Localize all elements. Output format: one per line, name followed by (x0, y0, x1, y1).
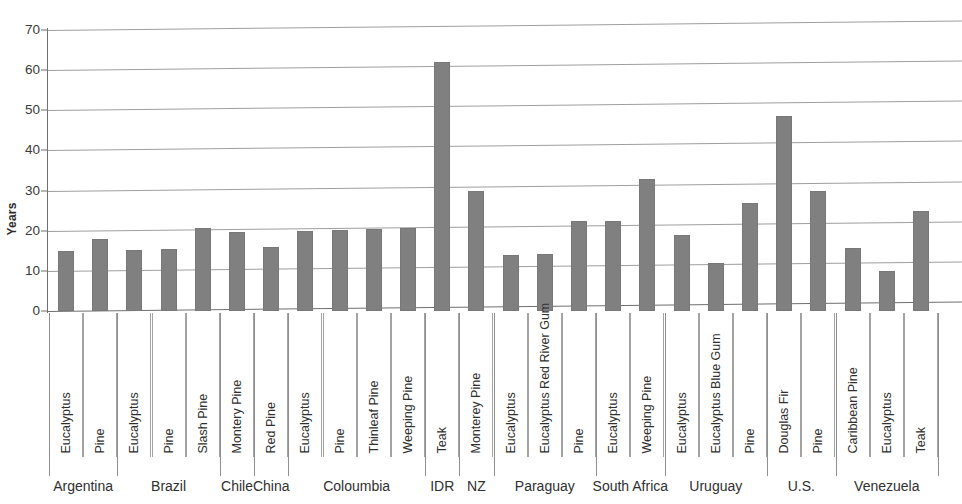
species-label: Eucalyptus (299, 392, 312, 453)
species-label: Pine (744, 428, 757, 453)
species-label: Montery Pine (231, 379, 244, 453)
bar (571, 221, 587, 311)
bar (400, 228, 416, 311)
species-cell: Thinleaf Pine (357, 313, 391, 457)
species-label: Teak (915, 427, 928, 453)
species-cell: Eucalyptus Red River Gum (528, 313, 562, 457)
y-tick-label-0: 0 (6, 304, 40, 318)
y-tick-mark-60 (41, 70, 48, 71)
species-label: Douglas Fir (778, 389, 791, 453)
bar (674, 235, 690, 311)
species-cell: Eucalyptus (117, 313, 151, 457)
country-label: Coloumbia (323, 478, 390, 494)
species-label: Pine (94, 428, 107, 453)
country-label: China (253, 478, 290, 494)
bar (58, 251, 74, 311)
species-label: Slash Pine (197, 393, 210, 453)
country-label: IDR (430, 478, 454, 494)
species-label: Weeping Pine (641, 375, 654, 453)
species-label: Weeping Pine (402, 375, 415, 453)
species-cell: Caribbean Pine (836, 313, 870, 457)
country-separator (494, 313, 495, 476)
gridline-70 (47, 20, 962, 31)
gridline-60 (47, 61, 962, 72)
species-cell: Pine (562, 313, 596, 457)
bar (92, 239, 108, 311)
country-label: Argentina (53, 478, 113, 494)
species-cell: Eucalyptus (288, 313, 322, 457)
bar (776, 116, 792, 311)
country-label: South Africa (593, 478, 669, 494)
gridline-40 (47, 141, 962, 152)
country-separator (938, 313, 939, 476)
bar (708, 263, 724, 311)
y-tick-label-30: 30 (6, 184, 40, 198)
species-cell: Teak (904, 313, 938, 457)
bar (434, 62, 450, 311)
species-label: Pine (333, 428, 346, 453)
country-separator (596, 313, 597, 476)
country-label: Chile (221, 478, 253, 494)
y-tick-mark-70 (41, 30, 48, 31)
y-axis-tick-labels: 010203040506070 (6, 0, 40, 504)
species-cell: Pine (83, 313, 117, 457)
country-label: Paraguay (515, 478, 575, 494)
species-cell: Eucalyptus (596, 313, 630, 457)
bar (810, 191, 826, 311)
y-tick-label-20: 20 (6, 224, 40, 238)
species-label: Eucalyptus Red River Gum (539, 302, 552, 453)
y-tick-mark-50 (41, 110, 48, 111)
y-tick-label-40: 40 (6, 144, 40, 158)
bar (195, 228, 211, 311)
bar (229, 232, 245, 311)
species-cell: Red Pine (254, 313, 288, 457)
bar (263, 247, 279, 311)
country-separator (665, 313, 666, 476)
bar (742, 203, 758, 311)
species-cell: Pine (323, 313, 357, 457)
bar (503, 255, 519, 311)
species-label: Eucalyptus (881, 392, 894, 453)
species-cell: Pine (733, 313, 767, 457)
y-tick-mark-10 (41, 270, 48, 271)
species-cell: Teak (425, 313, 459, 457)
species-cell: Pine (801, 313, 835, 457)
species-cell: Eucalyptus (494, 313, 528, 457)
country-label: Uruguay (689, 478, 742, 494)
species-label: Pine (162, 428, 175, 453)
species-label: Caribbean Pine (846, 367, 859, 453)
country-separator (220, 313, 221, 476)
country-label: NZ (467, 478, 486, 494)
country-label: Brazil (151, 478, 186, 494)
species-cell: Douglas Fir (767, 313, 801, 457)
species-label: Eucalyptus (60, 392, 73, 453)
species-cell: Weeping Pine (630, 313, 664, 457)
bar (639, 179, 655, 311)
country-separator (767, 313, 768, 476)
bar (332, 230, 348, 311)
species-label: Eucalyptus Blue Gum (710, 333, 723, 453)
bar (845, 248, 861, 311)
species-cell: Slash Pine (186, 313, 220, 457)
species-label: Eucalyptus (607, 392, 620, 453)
species-cell: Pine (152, 313, 186, 457)
bar (297, 231, 313, 311)
bar (468, 191, 484, 311)
species-label: Eucalyptus (675, 392, 688, 453)
gridline-50 (47, 101, 962, 112)
species-cell: Eucalyptus (49, 313, 83, 457)
species-label: Eucalyptus (128, 392, 141, 453)
species-cell: Eucalyptus (665, 313, 699, 457)
y-tick-mark-30 (41, 190, 48, 191)
species-cell: Montery Pine (220, 313, 254, 457)
species-label: Pine (573, 428, 586, 453)
bar (126, 250, 142, 311)
bar (161, 249, 177, 311)
bar (913, 211, 929, 311)
country-label: Venezuela (854, 478, 919, 494)
country-separator (254, 313, 255, 476)
bar (879, 271, 895, 311)
plot-area: EucalyptusPineEucalyptusPineSlash PineMo… (47, 0, 962, 504)
y-tick-label-60: 60 (6, 63, 40, 77)
species-cell: Monterey Pine (459, 313, 493, 457)
